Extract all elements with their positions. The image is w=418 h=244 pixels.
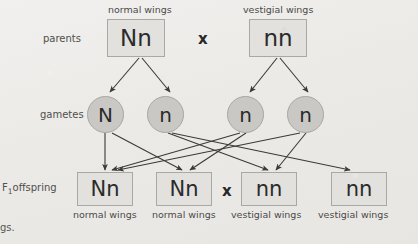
gamete-circle-2: n — [227, 96, 264, 133]
f1-suffix: offspring — [13, 182, 57, 193]
cut-off-text-line — [10, 236, 310, 244]
row-label-gametes: gametes — [40, 109, 84, 120]
parent-caption-1: vestigial wings — [243, 4, 313, 15]
parent-box-1: nn — [249, 19, 307, 57]
offspring-caption-1: normal wings — [152, 209, 216, 220]
gamete-circle-3: n — [287, 96, 324, 133]
parent-box-0: Nn — [107, 19, 165, 57]
offspring-cross-symbol: x — [222, 182, 232, 200]
genetics-cross-diagram: parents normal wings Nn x vestigial wing… — [0, 0, 418, 244]
offspring-caption-2: vestigial wings — [231, 209, 301, 220]
offspring-caption-3: vestigial wings — [318, 209, 388, 220]
gamete-to-offspring-arrows — [105, 133, 350, 170]
parent-to-gamete-arrows — [110, 58, 308, 92]
cut-off-text-fragment: gs. — [0, 222, 15, 233]
offspring-box-0: Nn — [77, 172, 133, 206]
parent-caption-0: normal wings — [108, 4, 172, 15]
offspring-box-3: nn — [331, 172, 387, 206]
offspring-caption-0: normal wings — [73, 209, 137, 220]
offspring-box-2: nn — [241, 172, 297, 206]
gamete-circle-1: n — [147, 96, 184, 133]
row-label-f1-offspring: F1offspring — [2, 182, 57, 196]
parent-cross-symbol: x — [198, 30, 208, 48]
offspring-box-1: Nn — [156, 172, 212, 206]
row-label-parents: parents — [43, 33, 81, 44]
gamete-circle-0: N — [87, 96, 124, 133]
